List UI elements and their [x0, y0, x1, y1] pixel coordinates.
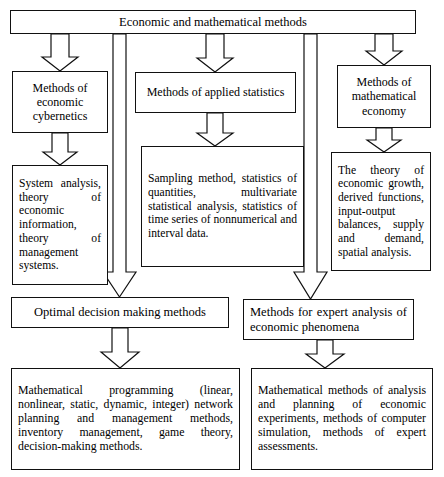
node-label: Mathematical methods of analysis and pla… — [252, 384, 432, 454]
arrow-optimal-decision-to-mathematical-programming — [101, 328, 139, 368]
node-methods-of-applied-statistics[interactable]: Methods of applied statistics — [135, 72, 296, 113]
node-optimal-decision-making-methods[interactable]: Optimal decision making methods — [11, 297, 229, 328]
arrow-root-to-cybernetics — [42, 34, 78, 71]
node-label: Optimal decision making methods — [12, 305, 228, 320]
node-label: System analysis, theory of economic info… — [13, 177, 107, 273]
arrow-cybernetics-to-system-analysis — [43, 133, 77, 165]
arrow-mathematical-economy-to-theory-growth — [367, 128, 401, 152]
node-label: Economic and mathematical methods — [11, 15, 415, 30]
arrow-applied-statistics-to-sampling — [197, 113, 233, 146]
node-sampling-method[interactable]: Sampling method, statistics of quantitie… — [141, 146, 304, 267]
arrow-root-to-applied-statistics — [197, 34, 233, 72]
node-label: Mathematical programming (linear, nonlin… — [12, 384, 239, 454]
node-system-analysis[interactable]: System analysis, theory of economic info… — [12, 165, 108, 285]
node-theory-of-economic-growth[interactable]: The theory of economic growth, derived f… — [331, 152, 431, 271]
node-methods-for-expert-analysis[interactable]: Methods for expert analysis of economic … — [243, 299, 414, 340]
node-label: Methods of applied statistics — [136, 85, 295, 99]
node-label: Sampling method, statistics of quantitie… — [142, 172, 303, 240]
node-methods-of-mathematical-economy[interactable]: Methods of mathematical economy — [337, 65, 431, 128]
arrow-root-to-mathematical-economy — [366, 34, 402, 65]
node-label: The theory of economic growth, derived f… — [332, 164, 430, 260]
node-label: Methods of economic cybernetics — [13, 81, 107, 123]
arrow-expert-analysis-to-mathematical-methods — [306, 340, 344, 368]
node-economic-and-mathematical-methods[interactable]: Economic and mathematical methods — [10, 10, 416, 34]
node-mathematical-programming[interactable]: Mathematical programming (linear, nonlin… — [11, 368, 240, 470]
node-methods-of-economic-cybernetics[interactable]: Methods of economic cybernetics — [12, 71, 108, 133]
node-label: Methods for expert analysis of economic … — [244, 305, 413, 335]
economic-mathematical-methods-diagram: Economic and mathematical methods Method… — [0, 0, 444, 477]
node-label: Methods of mathematical economy — [338, 75, 430, 117]
node-mathematical-methods-of-analysis[interactable]: Mathematical methods of analysis and pla… — [251, 368, 433, 470]
